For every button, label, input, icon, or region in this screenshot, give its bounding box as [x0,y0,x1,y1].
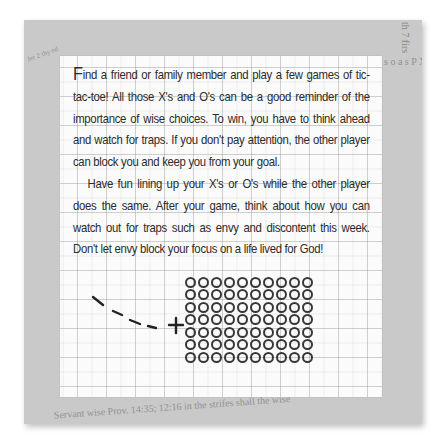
o-ring-icon [224,327,235,338]
o-marker [223,326,236,339]
o-marker [223,276,236,289]
o-ring-icon [263,327,274,338]
o-ring-icon [289,339,300,350]
o-marker [301,301,314,314]
o-ring-icon [276,277,287,288]
o-ring-icon [224,314,235,325]
o-marker [184,276,197,289]
o-marker [223,289,236,302]
o-marker [236,326,249,339]
o-marker [184,339,197,352]
o-marker [262,339,275,352]
o-ring-icon [185,339,196,350]
o-markers-grid [184,276,318,364]
o-marker [275,289,288,302]
o-ring-icon [185,289,196,300]
o-ring-icon [224,302,235,313]
o-ring-icon [302,302,313,313]
dash-3 [130,320,140,324]
o-ring-icon [302,277,313,288]
o-ring-icon [302,352,313,363]
o-marker [236,276,249,289]
o-ring-icon [263,339,274,350]
o-marker [249,276,262,289]
o-marker [301,339,314,352]
o-marker [236,339,249,352]
o-marker [223,339,236,352]
o-ring-icon [263,352,274,363]
text-squeeze-wrapper: Find a friend or family member and play … [73,64,370,260]
o-marker [236,314,249,327]
o-marker [288,301,301,314]
o-marker [262,326,275,339]
o-marker [236,301,249,314]
o-marker [197,276,210,289]
o-ring-icon [211,327,222,338]
newspaper-text-right: s o a s P X V G PROVE m 101 ay f a of a … [384,56,422,396]
o-marker [262,289,275,302]
o-marker [210,276,223,289]
devotional-text: Find a friend or family member and play … [73,64,370,260]
dash-1 [93,297,103,305]
o-marker [184,326,197,339]
o-marker [210,339,223,352]
o-ring-icon [237,339,248,350]
o-ring-icon [250,339,261,350]
o-marker [184,301,197,314]
o-marker [184,314,197,327]
o-marker [197,326,210,339]
o-ring-icon [224,339,235,350]
o-ring-icon [198,277,209,288]
o-marker [288,289,301,302]
o-marker [275,339,288,352]
o-marker [301,289,314,302]
o-ring-icon [185,314,196,325]
o-ring-icon [263,289,274,300]
o-ring-icon [198,352,209,363]
o-marker [210,326,223,339]
o-ring-icon [276,314,287,325]
o-ring-icon [185,277,196,288]
o-marker [197,339,210,352]
o-ring-icon [276,352,287,363]
o-ring-icon [185,302,196,313]
o-marker [262,276,275,289]
o-ring-icon [250,302,261,313]
o-marker [301,326,314,339]
o-marker [262,301,275,314]
dash-4 [148,326,156,328]
o-marker [275,351,288,364]
o-ring-icon [250,289,261,300]
o-ring-icon [198,302,209,313]
graph-paper-card: Find a friend or family member and play … [60,56,382,397]
paragraph-1-body: ind a friend or family member and play a… [73,67,370,169]
o-ring-icon [263,302,274,313]
o-marker [275,314,288,327]
o-ring-icon [237,277,248,288]
o-ring-icon [302,327,313,338]
o-marker [288,339,301,352]
o-marker [210,351,223,364]
o-ring-icon [237,289,248,300]
o-marker [288,351,301,364]
o-marker [184,351,197,364]
o-ring-icon [250,277,261,288]
o-marker [249,301,262,314]
dash-2 [113,311,122,315]
o-ring-icon [289,352,300,363]
o-marker [301,276,314,289]
o-ring-icon [237,314,248,325]
o-marker [236,351,249,364]
o-marker [275,326,288,339]
o-ring-icon [211,289,222,300]
o-marker [223,301,236,314]
o-ring-icon [211,352,222,363]
o-ring-icon [250,327,261,338]
o-marker [275,276,288,289]
dropcap-letter: F [73,63,83,84]
o-marker [197,314,210,327]
o-marker [249,351,262,364]
o-ring-icon [276,302,287,313]
o-ring-icon [237,302,248,313]
o-marker [262,314,275,327]
